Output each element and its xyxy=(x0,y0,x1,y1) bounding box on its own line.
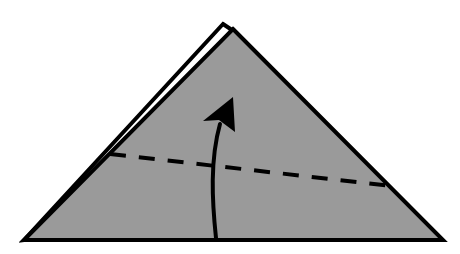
paper-triangle xyxy=(24,29,443,240)
origami-diagram xyxy=(0,0,460,254)
